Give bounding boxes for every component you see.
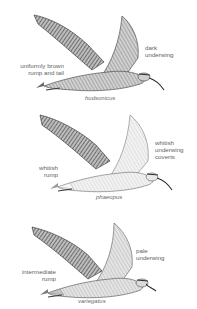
panel-phaeopus: whitish underwing coverts whitish rump p…: [0, 105, 197, 205]
label-intermediate-rump: intermediate rump: [8, 268, 56, 282]
label-line: intermediate: [8, 268, 56, 275]
panel-hudsonicus: dark underwing uniformly brown rump and …: [0, 0, 197, 105]
caption-phaeopus: phaeopus: [96, 194, 122, 200]
caption-hudsonicus: hudsonicus: [85, 95, 115, 101]
label-line: coverts: [155, 153, 184, 160]
label-whitish-underwing-coverts: whitish underwing coverts: [155, 139, 184, 160]
bill: [157, 178, 172, 190]
label-line: underwing: [136, 254, 165, 261]
bill: [147, 284, 156, 291]
underwing: [94, 223, 132, 285]
label-line: underwing: [155, 146, 184, 153]
label-line: whitish: [20, 164, 58, 171]
panel-variegatus: pale underwing intermediate rump variega…: [0, 205, 197, 309]
caption-variegatus: variegatus: [78, 298, 106, 304]
label-whitish-rump: whitish rump: [20, 164, 58, 178]
label-line: underwing: [145, 51, 174, 58]
label-pale-underwing: pale underwing: [136, 247, 165, 261]
label-line: dark: [145, 44, 174, 51]
underwing: [108, 115, 148, 179]
bill: [149, 78, 164, 90]
far-wing: [40, 115, 110, 169]
underwing: [100, 16, 138, 78]
label-line: whitish: [155, 139, 184, 146]
label-line: rump and tail: [6, 69, 64, 76]
label-dark-underwing: dark underwing: [145, 44, 174, 58]
label-line: rump: [8, 275, 56, 282]
tail: [36, 82, 44, 88]
label-line: pale: [136, 247, 165, 254]
label-line: rump: [20, 171, 58, 178]
label-line: uniformly brown: [6, 62, 64, 69]
bird-illustration-variegatus: [0, 205, 197, 309]
label-uniformly-brown-rump: uniformly brown rump and tail: [6, 62, 64, 76]
tail: [50, 183, 58, 189]
tail: [40, 289, 48, 295]
